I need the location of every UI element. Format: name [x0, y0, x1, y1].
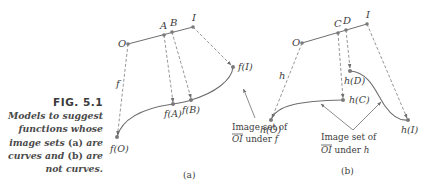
point-O-b: [300, 41, 304, 45]
point-C: [336, 31, 340, 35]
point-I-a: [191, 25, 195, 29]
annotation-a-line2: OI under f: [232, 134, 280, 144]
segment-OI-label-b: OI: [321, 145, 332, 155]
image-curve-f: [117, 67, 233, 137]
label-hD: h(D): [344, 75, 365, 86]
map-arrow-A: [164, 35, 173, 102]
segment-OI-label-a: OI: [232, 134, 243, 144]
map-arrow-I-b: [367, 24, 407, 118]
annotation-arrow-b-left: [321, 104, 353, 130]
label-D: D: [342, 15, 351, 26]
point-hC: [341, 98, 345, 102]
point-fB: [189, 98, 193, 102]
label-fI: f(I): [237, 61, 253, 72]
point-hI: [406, 118, 410, 122]
annotation-arrow-a: [244, 89, 256, 118]
point-I-b: [365, 22, 369, 26]
map-arrow-C: [338, 33, 343, 98]
sublabel-b: (b): [341, 166, 354, 176]
point-D: [344, 28, 348, 32]
map-arrow-I-a: [193, 27, 231, 65]
label-C: C: [334, 18, 342, 29]
point-B: [170, 30, 174, 34]
label-hC: h(C): [349, 94, 370, 105]
figure-diagram: O A B I f f(O) f(A) f(B) f(I) Image set …: [0, 0, 426, 189]
point-fA: [171, 102, 175, 106]
annotation-b-line2: OI under h: [321, 145, 369, 155]
point-hO: [269, 118, 273, 122]
point-fO: [115, 135, 119, 139]
label-fB: f(B): [181, 104, 200, 115]
annotation-b-line1: Image set of: [321, 132, 377, 142]
label-hO: h(O): [260, 124, 282, 135]
label-B: B: [169, 17, 177, 28]
panel-a: O A B I f f(O) f(A) f(B) f(I) Image set …: [109, 12, 288, 180]
label-h: h: [279, 70, 285, 81]
point-hD: [348, 69, 352, 73]
svg-text:OI under h: OI under h: [321, 145, 369, 155]
label-I-a: I: [191, 12, 197, 23]
label-fA: f(A): [163, 108, 182, 119]
annotation-arrow-b-right: [353, 102, 381, 130]
point-A: [162, 33, 166, 37]
label-fO: f(O): [109, 143, 129, 154]
map-arrow-B: [172, 32, 191, 98]
label-A: A: [159, 20, 167, 31]
point-fI: [231, 65, 235, 69]
sublabel-a: (a): [183, 170, 195, 180]
image-piece-O-to-C: [271, 100, 343, 120]
svg-text:OI under f: OI under f: [232, 134, 280, 144]
label-f: f: [115, 78, 122, 89]
label-I-b: I: [365, 9, 371, 20]
point-O-a: [126, 42, 130, 46]
label-O-b: O: [292, 37, 300, 48]
panel-b: O C D I h h(O) h(C) h(D) h(I) Image set …: [260, 9, 419, 176]
map-arrow-D: [346, 30, 350, 68]
label-O-a: O: [118, 38, 126, 49]
label-hI: h(I): [401, 124, 419, 135]
